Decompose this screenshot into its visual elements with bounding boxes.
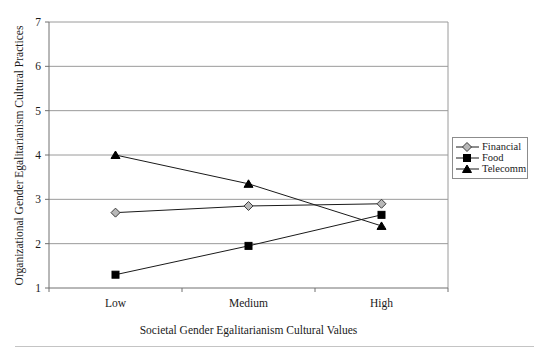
- legend-item-food: Food: [456, 153, 525, 163]
- y-tick-label: 4: [35, 149, 41, 161]
- marker-food-medium: [245, 242, 252, 249]
- y-tick-label: 7: [35, 16, 41, 28]
- marker-financial-high: [377, 199, 386, 208]
- legend-marker-diamond: [463, 143, 472, 152]
- marker-food-high: [378, 211, 385, 218]
- legend-item-financial: Financial: [456, 142, 525, 152]
- x-axis-title: Societal Gender Egalitarianism Cultural …: [49, 324, 448, 336]
- legend-label: Financial: [482, 142, 521, 152]
- legend-marker-diamond-icon: [456, 142, 479, 152]
- legend-marker-square: [464, 155, 471, 162]
- legend-item-telecomm: Telecomm: [456, 164, 525, 174]
- marker-food-low: [112, 271, 119, 278]
- series-line-telecomm: [116, 155, 382, 226]
- bottom-rule: [15, 346, 534, 347]
- legend-marker-square-icon: [456, 153, 479, 163]
- x-tick-label-low: Low: [105, 297, 127, 309]
- marker-financial-medium: [244, 201, 253, 210]
- y-tick-label: 6: [35, 60, 41, 72]
- legend-marker-triangle-icon: [456, 164, 479, 174]
- legend: Financial Food Telecomm: [452, 137, 528, 179]
- marker-telecomm-high: [377, 222, 386, 230]
- marker-financial-low: [111, 208, 120, 217]
- y-axis-title: Organizational Gender Egalitarianism Cul…: [13, 16, 28, 296]
- x-tick-label-high: High: [370, 297, 393, 310]
- legend-label: Telecomm: [482, 164, 526, 174]
- chart-figure: 1234567LowMediumHigh Organizational Gend…: [0, 0, 551, 357]
- y-tick-label: 2: [35, 238, 41, 250]
- x-tick-label-medium: Medium: [229, 297, 268, 309]
- y-tick-label: 1: [35, 282, 41, 294]
- legend-label: Food: [482, 153, 504, 163]
- y-tick-label: 3: [35, 193, 41, 205]
- y-tick-label: 5: [35, 105, 41, 117]
